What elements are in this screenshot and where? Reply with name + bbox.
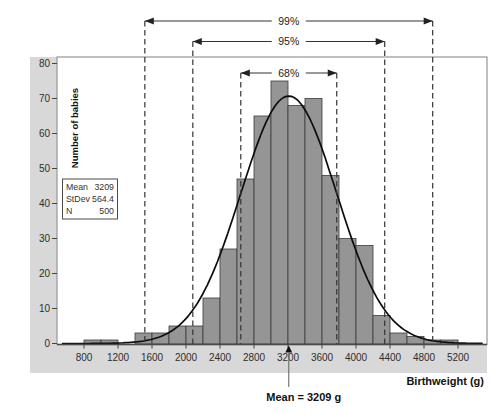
histogram-bar <box>203 298 220 344</box>
interval-label: 95% <box>278 35 299 47</box>
x-tick-label: 5200 <box>447 352 470 363</box>
arrow-left-icon <box>145 17 154 24</box>
y-tick-label: 0 <box>44 338 50 349</box>
histogram-bar <box>237 179 254 344</box>
stats-label: StDev <box>66 194 91 204</box>
y-tick-label: 60 <box>39 128 51 139</box>
y-tick-label: 10 <box>39 303 51 314</box>
histogram-bar <box>373 316 390 345</box>
histogram-bar <box>288 106 305 345</box>
x-tick-label: 800 <box>76 352 93 363</box>
histogram-bar <box>254 116 271 344</box>
y-tick-label: 20 <box>39 268 51 279</box>
histogram-bar <box>305 99 322 345</box>
x-tick-label: 2000 <box>175 352 198 363</box>
histogram-bar <box>390 333 407 344</box>
birthweight-histogram-figure: 68%95%99%8001200160020002400280032003600… <box>0 0 495 414</box>
x-tick-label: 1600 <box>141 352 164 363</box>
y-axis-title: Number of babies <box>69 88 80 168</box>
histogram-bar <box>356 246 373 345</box>
stats-box: Mean3209StDev564.4N500 <box>63 179 118 219</box>
x-tick-label: 4400 <box>379 352 402 363</box>
histogram-bar <box>186 326 203 344</box>
stats-label: Mean <box>66 182 88 192</box>
arrow-right-icon <box>424 17 433 24</box>
x-tick-label: 2400 <box>209 352 232 363</box>
stats-value: 500 <box>99 206 114 216</box>
interval-label: 99% <box>278 15 299 27</box>
x-tick-label: 3600 <box>311 352 334 363</box>
birthweight-distribution-chart: 68%95%99%8001200160020002400280032003600… <box>0 0 495 414</box>
histogram-bar <box>220 249 237 344</box>
arrow-right-icon <box>376 38 385 45</box>
stats-label: N <box>66 206 72 216</box>
x-tick-label: 2800 <box>243 352 266 363</box>
x-axis-title: Birthweight (g) <box>406 375 484 387</box>
y-tick-label: 70 <box>39 93 51 104</box>
x-tick-label: 4800 <box>413 352 436 363</box>
y-axis-band <box>30 57 57 373</box>
histogram-bar <box>169 326 186 344</box>
y-tick-label: 80 <box>39 58 51 69</box>
interval-label: 68% <box>278 67 299 79</box>
stats-value: 3209 <box>94 182 114 192</box>
x-tick-label: 1200 <box>107 352 130 363</box>
histogram-bar <box>339 239 356 345</box>
mean-annotation-label: Mean = 3209 g <box>266 391 341 403</box>
arrow-left-icon <box>193 38 202 45</box>
x-tick-label: 4000 <box>345 352 368 363</box>
y-tick-label: 50 <box>39 163 51 174</box>
y-tick-label: 30 <box>39 233 51 244</box>
y-tick-label: 40 <box>39 198 51 209</box>
histogram-bar <box>271 81 288 344</box>
stats-value: 564.4 <box>92 194 114 204</box>
